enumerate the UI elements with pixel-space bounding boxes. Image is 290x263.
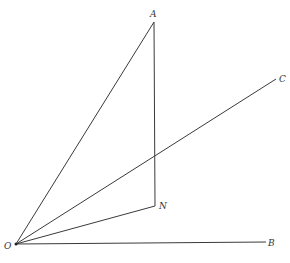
segment-OC — [16, 79, 276, 244]
segment-ON — [16, 206, 155, 244]
label-O: O — [4, 241, 12, 251]
vertex-O-dot — [15, 243, 18, 246]
segment-OA — [16, 22, 154, 244]
segment-OB — [16, 242, 266, 244]
segment-AN — [154, 22, 155, 206]
label-C: C — [279, 74, 286, 84]
label-A: A — [149, 9, 157, 19]
label-N: N — [158, 201, 168, 211]
label-B: B — [267, 238, 275, 248]
geometry-diagram: A C N O B — [0, 0, 290, 263]
